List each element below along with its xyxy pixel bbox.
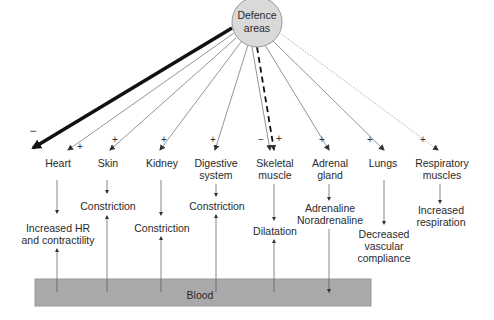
label-skeletal-1: Skeletal [256,157,293,169]
effect-adrenal-2: Noradrenaline [297,214,363,226]
label-respiratory-2: muscles [423,169,462,181]
effect-respiratory-1: Increased [418,204,464,216]
effect-lungs-3: compliance [357,252,410,264]
arrow-heart-positive [68,33,234,150]
label-skeletal-2: muscle [258,169,291,181]
sign-skeletal-negative: − [258,134,264,145]
effect-digestive: Constriction [189,200,245,212]
label-adrenal-2: gland [317,169,343,181]
sign-respiratory: + [420,134,426,145]
sign-heart-negative: − [29,124,36,138]
arrow-digestive [215,45,248,150]
label-adrenal-1: Adrenal [312,157,348,169]
effect-kidney: Constriction [134,222,190,234]
effect-skeletal: Dilatation [253,225,297,237]
effect-respiratory-2: respiration [416,216,465,228]
sign-skin: + [112,134,118,145]
sign-adrenal: + [319,134,325,145]
effect-heart-1: Increased HR [26,222,91,234]
blood-label: Blood [187,289,214,301]
effect-lungs-2: vascular [364,240,404,252]
label-heart: Heart [45,157,71,169]
center-line2: areas [244,22,270,34]
arrow-respiratory-dotted [276,30,438,150]
arrow-kidney [160,42,241,150]
efferent-arrows [33,28,438,150]
label-digestive-2: system [199,169,233,181]
defence-areas-node: Defence areas [232,0,282,47]
effect-skin: Constriction [80,200,136,212]
sign-heart-positive: + [77,141,83,152]
label-kidney: Kidney [146,157,179,169]
sign-lungs: + [367,134,373,145]
defence-areas-diagram: Blood Defence areas − + + + + − [0,0,494,320]
blood-bar: Blood [35,279,371,306]
effect-labels: Increased HR and contractility Constrict… [22,200,466,264]
sign-digestive: + [210,134,216,145]
signs: − + + + + − + + + + [29,124,426,152]
effect-adrenal-1: Adrenaline [305,202,355,214]
label-respiratory-1: Respiratory [415,157,469,169]
organ-labels: Heart Skin Kidney Digestive system Skele… [45,157,469,181]
effect-lungs-1: Decreased [359,228,410,240]
center-line1: Defence [237,9,276,21]
sign-kidney: + [161,134,167,145]
label-skin: Skin [98,157,119,169]
label-digestive-1: Digestive [194,157,237,169]
sign-skeletal-positive: + [276,133,282,144]
effect-heart-2: and contractility [22,234,96,246]
label-lungs: Lungs [369,157,398,169]
